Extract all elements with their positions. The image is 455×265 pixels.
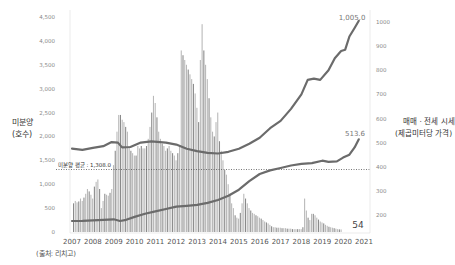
- unsold-bar: [306, 211, 307, 233]
- unsold-bar: [109, 193, 110, 232]
- unsold-bar: [268, 223, 269, 232]
- unsold-bar: [226, 175, 227, 232]
- unsold-bar: [250, 211, 251, 233]
- x-tick-label: 2010: [126, 238, 144, 246]
- unsold-bar: [335, 229, 336, 232]
- unsold-bar: [221, 151, 222, 232]
- unsold-bar: [214, 136, 215, 232]
- x-tick-label: 2007: [63, 238, 81, 246]
- unsold-bar: [118, 115, 119, 232]
- left-tick-label: 1,500: [39, 157, 55, 163]
- unsold-bar: [106, 195, 107, 232]
- left-tick-label: 500: [45, 205, 56, 211]
- right-tick-label: 800: [376, 67, 387, 73]
- right-tick-label: 700: [376, 91, 387, 97]
- unsold-bar: [229, 194, 230, 232]
- left-tick-label: 3,000: [39, 86, 55, 92]
- unsold-bar: [261, 219, 262, 232]
- left-axis-label-1: 미분양: [12, 118, 34, 127]
- unsold-bar: [122, 120, 123, 232]
- unsold-bar: [217, 113, 218, 232]
- x-tick-label: 2020: [334, 238, 352, 246]
- x-tick-label: 2012: [167, 238, 185, 246]
- unsold-bar: [330, 227, 331, 232]
- x-tick-label: 2013: [188, 238, 206, 246]
- unsold-bar: [87, 189, 88, 232]
- unsold-bar: [264, 221, 265, 232]
- unsold-bar: [111, 189, 112, 232]
- unsold-bar: [302, 227, 303, 232]
- unsold-bar: [309, 220, 310, 232]
- unsold-bar: [141, 146, 142, 232]
- unsold-bar: [278, 228, 279, 232]
- unsold-bar: [224, 170, 225, 232]
- unsold-bar: [212, 132, 213, 232]
- unsold-bar: [97, 179, 98, 232]
- unsold-bar: [222, 160, 223, 232]
- unsold-bar: [339, 229, 340, 232]
- unsold-bar: [288, 229, 289, 232]
- average-label: 미분양 평균 : 1,308.0: [58, 161, 112, 169]
- unsold-bar: [337, 229, 338, 232]
- unsold-bar: [283, 228, 284, 232]
- unsold-bar: [134, 156, 135, 232]
- unsold-bar: [327, 226, 328, 232]
- unsold-bar: [266, 222, 267, 232]
- x-tick-label: 2021: [355, 238, 373, 246]
- left-tick-label: 3,500: [39, 62, 55, 68]
- left-axis-label-2: (호수): [12, 130, 32, 139]
- right-tick-label: 900: [376, 43, 387, 49]
- unsold-bar: [318, 220, 319, 232]
- unsold-bar: [80, 199, 81, 232]
- unsold-bar: [179, 146, 180, 232]
- x-tick-label: 2016: [251, 238, 269, 246]
- unsold-bar: [188, 70, 189, 232]
- left-tick-label: 2,500: [39, 110, 55, 116]
- unsold-bar: [252, 213, 253, 232]
- unsold-bar: [156, 117, 157, 232]
- unsold-bar: [165, 151, 166, 232]
- right-tick-label: 500: [376, 140, 387, 146]
- unsold-bar: [172, 153, 173, 232]
- unsold-bar: [205, 65, 206, 232]
- unsold-bar: [132, 153, 133, 232]
- unsold-bar: [311, 214, 312, 232]
- unsold-bar: [240, 213, 241, 232]
- sale-end-label: 1,005.0: [339, 14, 366, 22]
- axes: 05001,0001,5002,0002,5003,0003,5004,0004…: [39, 10, 390, 246]
- unsold-bar: [259, 218, 260, 232]
- unsold-bar: [325, 225, 326, 232]
- unsold-bar: [181, 50, 182, 232]
- unsold-bar: [167, 148, 168, 232]
- right-tick-label: 400: [376, 164, 387, 170]
- unsold-bar: [219, 141, 220, 232]
- unsold-bar: [285, 228, 286, 232]
- unsold-bar: [314, 215, 315, 232]
- unsold-bar: [200, 60, 201, 232]
- unsold-bar: [120, 115, 121, 232]
- unsold-bar: [243, 194, 244, 232]
- unsold-bar: [123, 122, 124, 232]
- unsold-bar: [269, 225, 270, 232]
- x-tick-label: 2017: [272, 238, 290, 246]
- unsold-bar: [207, 79, 208, 232]
- unsold-bar: [96, 182, 97, 232]
- unsold-bar: [158, 132, 159, 232]
- unsold-bar: [99, 189, 100, 232]
- unsold-bar: [273, 227, 274, 232]
- unsold-bar: [210, 117, 211, 232]
- x-tick-label: 2019: [313, 238, 331, 246]
- unsold-bar: [275, 227, 276, 232]
- unsold-bar: [280, 228, 281, 232]
- unsold-bar: [247, 203, 248, 232]
- unsold-bar: [323, 223, 324, 232]
- unsold-bar: [290, 229, 291, 232]
- x-tick-label: 2011: [147, 238, 165, 246]
- right-tick-label: 1000: [376, 19, 390, 25]
- unsold-bar: [130, 151, 131, 232]
- sale-price-line: [72, 21, 359, 154]
- unsold-bar: [299, 229, 300, 232]
- unsold-bar: [292, 229, 293, 232]
- unsold-bar: [301, 229, 302, 232]
- x-tick-label: 2014: [209, 238, 227, 246]
